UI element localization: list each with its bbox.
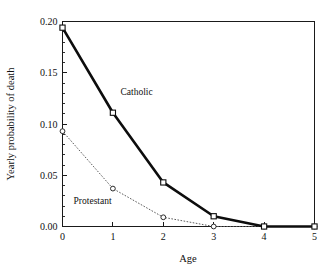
x-tick-label-5: 5 (312, 231, 317, 242)
x-tick-label-2: 2 (161, 231, 166, 242)
data-point-catholic-5 (312, 224, 317, 229)
data-point-protestant-1 (111, 186, 116, 191)
x-axis-title: Age (179, 253, 197, 264)
x-tick-label-4: 4 (262, 231, 267, 242)
data-point-catholic-0 (60, 25, 65, 30)
y-tick-label-0: 0.00 (40, 221, 58, 232)
data-point-catholic-1 (110, 110, 115, 115)
y-axis-title: Yearly probability of death (5, 67, 16, 181)
data-point-protestant-2 (161, 215, 166, 220)
chart-figure: 0.000.050.100.150.20 012345 CatholicProt… (0, 0, 326, 273)
data-point-catholic-3 (211, 214, 216, 219)
x-tick-label-1: 1 (110, 231, 115, 242)
y-tick-label-4: 0.20 (40, 16, 58, 27)
series-label-protestant: Protestant (74, 196, 112, 206)
data-point-protestant-3 (211, 224, 216, 229)
data-point-catholic-2 (161, 180, 166, 185)
x-tick-label-0: 0 (60, 231, 65, 242)
series-line-protestant (63, 131, 315, 226)
x-tick-label-3: 3 (211, 231, 216, 242)
data-point-catholic-4 (262, 224, 267, 229)
line-chart: 0.000.050.100.150.20 012345 CatholicProt… (0, 0, 326, 273)
x-axis-tick-labels: 012345 (60, 231, 317, 242)
y-tick-label-3: 0.15 (40, 67, 58, 78)
data-point-protestant-0 (60, 129, 65, 134)
y-tick-label-2: 0.10 (40, 119, 58, 130)
y-tick-label-1: 0.05 (40, 170, 58, 181)
y-axis-tick-labels: 0.000.050.100.150.20 (40, 16, 58, 232)
series-label-catholic: Catholic (120, 87, 152, 97)
